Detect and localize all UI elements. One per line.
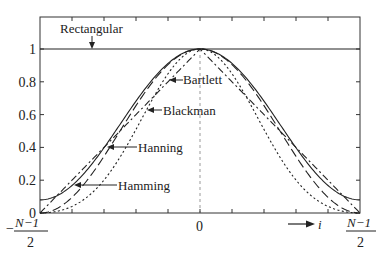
annotation-hamming: Hamming: [74, 178, 170, 193]
x-axis-arrow: i: [288, 217, 322, 232]
arrow-left-icon: [169, 77, 176, 83]
svg-text:0.6: 0.6: [19, 108, 37, 123]
label-hanning: Hanning: [138, 140, 183, 155]
x-label-left: − N−1 2: [6, 215, 48, 250]
svg-text:2: 2: [357, 235, 364, 250]
svg-text:0.4: 0.4: [19, 140, 37, 155]
arrow-right-icon: [306, 221, 315, 228]
annotation-rectangular: Rectangular: [60, 21, 123, 49]
y-tick-labels: 00.20.40.60.81: [19, 42, 37, 221]
svg-text:0.8: 0.8: [19, 75, 37, 90]
annotation-hanning: Hanning: [107, 140, 183, 155]
svg-text:N−1: N−1: [14, 215, 39, 230]
annotation-bartlett: Bartlett: [169, 72, 222, 87]
annotation-blackman: Blackman: [147, 103, 216, 118]
x-label-right: N−1 2: [346, 215, 376, 250]
svg-text:−: −: [6, 221, 14, 236]
label-blackman: Blackman: [163, 103, 216, 118]
svg-text:0.2: 0.2: [19, 173, 37, 188]
svg-text:1: 1: [29, 42, 36, 57]
svg-text:N−1: N−1: [346, 215, 371, 230]
x-axis-label: i: [318, 217, 322, 232]
label-bartlett: Bartlett: [183, 72, 222, 87]
label-rectangular: Rectangular: [60, 21, 123, 36]
label-hamming: Hamming: [118, 178, 170, 193]
window-functions-chart: 00.20.40.60.81 Rectangular Bartlett Blac…: [0, 0, 385, 259]
arrow-down-icon: [89, 42, 95, 49]
svg-text:2: 2: [27, 235, 34, 250]
x-label-center: 0: [196, 219, 203, 234]
